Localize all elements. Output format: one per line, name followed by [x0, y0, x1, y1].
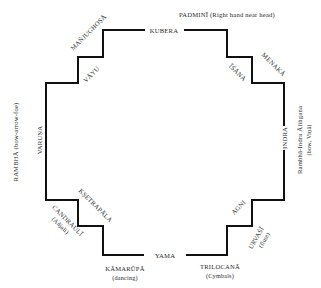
label-rambha-east-1: Rambhā-Indra Āliṅgana: [296, 106, 303, 174]
label-rambha-east-2: (bow, Viṇā): [305, 124, 313, 155]
label-manjughosa: MAÑJUGHOṢĀ: [69, 13, 108, 52]
label-kubera: KUBERA: [150, 27, 178, 34]
label-trilocana-1: TRILOCANĀ: [200, 263, 240, 270]
label-rambha-west: RAMBHĀ (bow-arrow-foe): [12, 103, 20, 182]
label-kamarupa-1: KĀMARŪPĀ: [105, 265, 144, 272]
label-menaka: MENAKĀ: [261, 51, 287, 77]
mandala-diagram: KUBERA YAMA VARUṆA INDRA VĀYU ĪŚĀNA KṢET…: [0, 0, 321, 288]
label-trilocana-2: (Cymbals): [206, 272, 234, 280]
label-vayu: VĀYU: [82, 65, 101, 84]
label-ksetrapala: KṢETRAPĀLA: [77, 187, 114, 224]
label-yama: YAMA: [155, 252, 175, 259]
label-padmini: PADMINĪ (Right hand near head): [179, 11, 275, 19]
label-indra: INDRA: [281, 127, 288, 149]
label-agni: AGNI: [230, 199, 247, 216]
label-isana: ĪŚĀNA: [228, 62, 248, 82]
label-varuna: VARUṆA: [36, 126, 43, 155]
label-kamarupa-2: (dancing): [112, 274, 138, 282]
